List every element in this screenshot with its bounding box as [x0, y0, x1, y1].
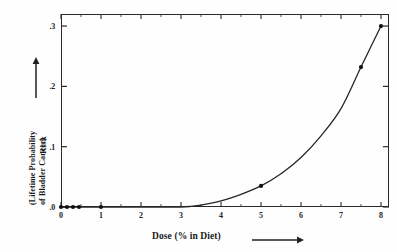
y-axis-title-sub-line2: of Bladder Cancer)	[38, 138, 47, 205]
y-axis-direction-arrow-icon	[30, 60, 42, 100]
y-tick-label-p3: .3	[49, 22, 55, 31]
y-axis-title-block: Risk (Lifetime Probability of Bladder Ca…	[7, 58, 51, 208]
x-tick-label-4: 4	[219, 211, 223, 220]
x-tick-label-5: 5	[259, 211, 263, 220]
x-tick-label-8: 8	[379, 211, 383, 220]
chart-figure: 012345678 .0.1.2.3 Dose (% in Diet) Risk…	[0, 0, 397, 252]
x-tick-label-0: 0	[59, 211, 63, 220]
x-axis-direction-arrow-icon	[246, 234, 302, 246]
x-tick-label-7: 7	[339, 211, 343, 220]
y-axis-title-sub-line1: (Lifetime Probability	[28, 131, 37, 205]
x-tick-label-2: 2	[139, 211, 143, 220]
x-axis-title: Dose (% in Diet)	[152, 231, 221, 241]
x-tick-label-6: 6	[299, 211, 303, 220]
plot-area-frame	[61, 14, 389, 207]
x-tick-label-1: 1	[99, 211, 103, 220]
x-tick-label-3: 3	[179, 211, 183, 220]
